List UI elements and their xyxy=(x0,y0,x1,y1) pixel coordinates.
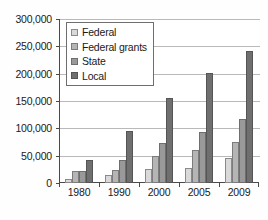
legend-label: Federal xyxy=(82,26,116,38)
bar-federal-2005 xyxy=(185,168,192,183)
bar-group xyxy=(185,19,213,183)
x-tick-label: 2009 xyxy=(228,186,251,206)
bar-federal-2009 xyxy=(225,158,232,183)
legend-item-local: Local xyxy=(71,70,147,82)
bar-state-2005 xyxy=(199,132,206,183)
bar-federal-1990 xyxy=(105,175,112,183)
y-tick-label: 200,000 xyxy=(0,68,52,80)
chart-legend: FederalFederal grantsStateLocal xyxy=(66,22,154,86)
bar-local-2009 xyxy=(246,51,253,183)
legend-swatch-icon xyxy=(71,29,78,36)
bar-federal-grants-2005 xyxy=(192,150,199,183)
x-tick-label: 1980 xyxy=(68,186,91,206)
legend-label: Federal grants xyxy=(82,41,147,53)
y-tick-label: 50,000 xyxy=(0,150,52,162)
legend-label: Local xyxy=(82,70,106,82)
bar-federal-grants-2000 xyxy=(152,156,159,183)
legend-item-state: State xyxy=(71,55,147,67)
y-tick-label: 150,000 xyxy=(0,95,52,107)
y-axis-labels: 050,000100,000150,000200,000250,000300,0… xyxy=(0,19,56,183)
bar-local-2000 xyxy=(166,98,173,183)
bar-state-1990 xyxy=(119,160,126,184)
bar-state-2009 xyxy=(239,119,246,183)
bar-local-1990 xyxy=(126,131,133,183)
bar-state-2000 xyxy=(159,143,166,183)
x-tick-label: 2000 xyxy=(148,186,171,206)
bar-chart: 050,000100,000150,000200,000250,000300,0… xyxy=(0,0,268,220)
bar-federal-grants-2009 xyxy=(232,142,239,183)
legend-swatch-icon xyxy=(71,72,78,79)
legend-swatch-icon xyxy=(71,43,78,50)
bar-local-2005 xyxy=(206,73,213,183)
legend-label: State xyxy=(82,55,106,67)
x-tick-label: 1990 xyxy=(108,186,131,206)
y-tick-label: 100,000 xyxy=(0,122,52,134)
legend-swatch-icon xyxy=(71,58,78,65)
y-tick-label: 250,000 xyxy=(0,40,52,52)
bar-federal-grants-1980 xyxy=(72,171,79,183)
x-axis-labels: 19801990200020052009 xyxy=(59,186,259,206)
y-tick-label: 0 xyxy=(0,177,52,189)
bar-federal-2000 xyxy=(145,169,152,183)
legend-item-federal: Federal xyxy=(71,26,147,38)
bar-federal-grants-1990 xyxy=(112,170,119,183)
bar-state-1980 xyxy=(79,171,86,183)
bar-group xyxy=(225,19,253,183)
y-tick-label: 300,000 xyxy=(0,13,52,25)
legend-item-federal-grants: Federal grants xyxy=(71,41,147,53)
bar-local-1980 xyxy=(86,160,93,184)
x-tick-label: 2005 xyxy=(188,186,211,206)
